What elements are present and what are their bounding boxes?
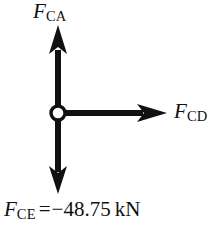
equation-value: 48.75 [63,197,110,221]
free-body-diagram-figure: FCA FCD FCE=−48.75kN [0,0,212,228]
equation-operator: = [36,197,52,221]
force-label-fca-subscript: CA [46,8,67,24]
force-label-fcd-symbol: F [174,99,187,123]
pin-joint-circle [51,106,65,120]
force-value-equation-fce: FCE=−48.75kN [4,199,140,222]
force-label-fca-symbol: F [33,0,46,23]
equation-sign: − [52,197,64,221]
equation-unit: kN [111,197,141,221]
equation-symbol: F [4,197,17,221]
force-arrow-fca-head [49,25,67,54]
force-label-fca: FCA [33,1,66,24]
force-label-fcd-subscript: CD [187,108,208,124]
equation-subscript: CE [17,206,36,222]
force-label-fcd: FCD [174,101,207,124]
